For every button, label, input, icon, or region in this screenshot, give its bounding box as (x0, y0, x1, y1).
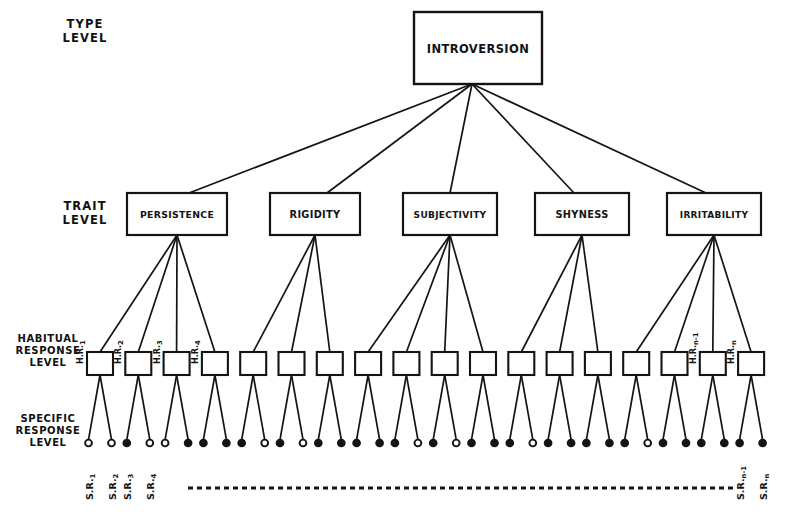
edge-trait-habitual (521, 235, 582, 352)
edge-habitual-specific (472, 375, 484, 440)
habitual-response-box[interactable] (547, 352, 573, 375)
svg-text:H.R.3: H.R.3 (153, 340, 164, 364)
specific-response-dots (85, 440, 766, 447)
habitual-response-box[interactable] (662, 352, 688, 375)
specific-response-dot (759, 440, 766, 447)
habitual-response-box[interactable] (432, 352, 458, 375)
habitual-response-box[interactable] (87, 352, 113, 375)
specific-response-dot (491, 440, 498, 447)
habitual-response-box[interactable] (279, 352, 305, 375)
edge-habitual-specific (740, 375, 752, 440)
edge-habitual-specific (483, 375, 495, 440)
edge-habitual-specific (636, 375, 648, 440)
specific-response-dot (353, 440, 360, 447)
habitual-response-label: H.R.3 (153, 340, 164, 364)
specific-response-dot (506, 440, 513, 447)
edge-habitual-specific (89, 375, 101, 440)
specific-response-dot (453, 440, 460, 447)
edge-trait-habitual (315, 235, 330, 352)
edge-habitual-specific (357, 375, 369, 440)
trait-node-label: IRRITABILITY (680, 210, 749, 220)
edge-habitual-specific (510, 375, 522, 440)
specific-response-dot (415, 440, 422, 447)
svg-text:H.R.2: H.R.2 (114, 340, 125, 364)
svg-text:S.R.4: S.R.4 (145, 473, 158, 500)
edge-habitual-specific (625, 375, 637, 440)
edge-type-trait (189, 84, 472, 193)
habitual-response-box[interactable] (623, 352, 649, 375)
specific-response-dot (583, 440, 590, 447)
habitual-response-label: H.R.4 (191, 340, 202, 364)
habitual-response-box[interactable] (164, 352, 190, 375)
specific-response-label: S.R.3 (122, 473, 135, 500)
edge-habitual-specific (177, 375, 189, 440)
edges-type-to-trait (189, 84, 706, 193)
edge-habitual-specific (713, 375, 725, 440)
edge-habitual-specific (521, 375, 533, 440)
svg-text:S.R.n: S.R.n (758, 473, 771, 500)
edge-habitual-specific (445, 375, 457, 440)
edge-habitual-specific (330, 375, 342, 440)
edge-habitual-specific (292, 375, 304, 440)
type-node-group[interactable]: INTROVERSION (414, 12, 542, 84)
edge-trait-habitual (253, 235, 315, 352)
specific-response-dot (644, 440, 651, 447)
specific-response-dot (123, 440, 130, 447)
habitual-response-box[interactable] (355, 352, 381, 375)
edge-habitual-specific (318, 375, 330, 440)
edge-trait-habitual (636, 235, 714, 352)
edge-trait-habitual (560, 235, 582, 352)
specific-response-dot (300, 440, 307, 447)
trait-node-label: PERSISTENCE (140, 209, 214, 220)
specific-response-dot (162, 440, 169, 447)
habitual-response-box[interactable] (700, 352, 726, 375)
habitual-response-label: H.R.2 (114, 340, 125, 364)
specific-response-dot (376, 440, 383, 447)
edges-habitual-to-specific (89, 375, 763, 440)
specific-response-dot (568, 440, 575, 447)
specific-response-dot (108, 440, 115, 447)
specific-response-dot (200, 440, 207, 447)
habitual-response-box[interactable] (738, 352, 764, 375)
edge-trait-habitual (714, 235, 751, 352)
specific-response-dot (430, 440, 437, 447)
edge-habitual-specific (548, 375, 560, 440)
trait-node-label: RIGIDITY (290, 209, 341, 220)
edge-habitual-specific (138, 375, 150, 440)
habitual-response-box[interactable] (470, 352, 496, 375)
specific-response-dot (529, 440, 536, 447)
edge-trait-habitual (582, 235, 598, 352)
habitual-response-box[interactable] (240, 352, 266, 375)
svg-text:H.R.n: H.R.n (727, 340, 738, 364)
edge-habitual-specific (368, 375, 380, 440)
edge-trait-habitual (713, 235, 714, 352)
edge-trait-habitual (138, 235, 177, 352)
edge-habitual-specific (203, 375, 215, 440)
specific-response-dot (185, 440, 192, 447)
habitual-response-box[interactable] (202, 352, 228, 375)
specific-response-dot (621, 440, 628, 447)
specific-response-dot (660, 440, 667, 447)
specific-response-dot (468, 440, 475, 447)
specific-response-dot (545, 440, 552, 447)
edge-type-trait (472, 84, 706, 193)
specific-response-dot (277, 440, 284, 447)
edge-habitual-specific (215, 375, 227, 440)
habitual-response-box[interactable] (508, 352, 534, 375)
edge-habitual-specific (165, 375, 177, 440)
edge-habitual-specific (433, 375, 445, 440)
specific-response-label: S.R.n (758, 473, 771, 500)
edge-habitual-specific (280, 375, 292, 440)
edge-habitual-specific (663, 375, 675, 440)
trait-nodes-group[interactable]: PERSISTENCERIGIDITYSUBJECTIVITYSHYNESSIR… (127, 193, 761, 235)
habitual-response-box[interactable] (585, 352, 611, 375)
habitual-nodes-group[interactable] (87, 352, 764, 375)
habitual-response-box[interactable] (393, 352, 419, 375)
habitual-response-box[interactable] (317, 352, 343, 375)
habitual-response-label: H.R.1 (76, 340, 87, 364)
svg-text:S.R.n-1: S.R.n-1 (735, 466, 748, 500)
specific-response-dot (315, 440, 322, 447)
habitual-response-box[interactable] (125, 352, 151, 375)
specific-response-dot (683, 440, 690, 447)
edge-habitual-specific (242, 375, 254, 440)
